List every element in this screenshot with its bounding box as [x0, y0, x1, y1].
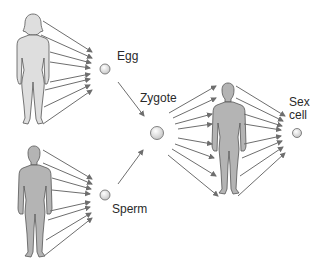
zygote-label: Zygote [140, 92, 177, 105]
egg-cell-icon [100, 64, 110, 74]
male-figure-icon [18, 146, 52, 257]
sperm-to-zygote-arrow [118, 150, 143, 184]
sex-cell-icon [293, 129, 302, 138]
offspring-figure-icon [212, 83, 246, 194]
egg-label: Egg [117, 50, 138, 63]
sperm-cell-icon [100, 190, 110, 200]
sex-cell-label-line2: cell [289, 109, 307, 122]
zygote-cell-icon [151, 127, 164, 140]
diagram-canvas [0, 0, 323, 268]
sperm-label: Sperm [112, 203, 147, 216]
female-figure-icon [17, 14, 49, 124]
